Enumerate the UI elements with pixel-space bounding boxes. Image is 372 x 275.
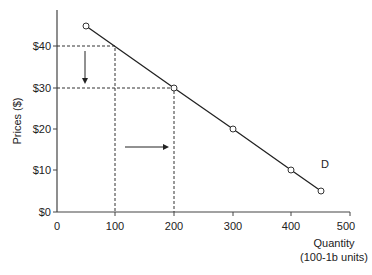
x-tick-label: 0 xyxy=(54,220,60,232)
y-tick-label: $10 xyxy=(33,164,51,176)
y-tick-label: $30 xyxy=(33,82,51,94)
x-tick-label: 200 xyxy=(165,220,183,232)
curve-label-d: D xyxy=(321,158,329,170)
down-arrow xyxy=(82,51,88,84)
y-tick-label: $20 xyxy=(33,123,51,135)
x-axis-sublabel: (100-1b units) xyxy=(300,251,368,263)
y-axis-label: Prices ($) xyxy=(11,97,23,144)
x-tick-label: 100 xyxy=(106,220,124,232)
y-tick-label: $40 xyxy=(33,40,51,52)
y-tick-label: $0 xyxy=(39,206,51,218)
right-arrow xyxy=(125,144,169,150)
x-tick-label: 500 xyxy=(337,220,355,232)
x-tick-label: 300 xyxy=(224,220,242,232)
x-tick-label: 400 xyxy=(282,220,300,232)
dashed-guides xyxy=(57,46,174,212)
demand-chart: $0 $10 $20 $30 $40 0 100 200 300 400 500 xyxy=(0,0,372,275)
demand-curve xyxy=(86,26,321,191)
x-ticks: 0 100 200 300 400 500 xyxy=(54,212,355,232)
x-axis-label: Quantity xyxy=(314,237,355,249)
y-ticks: $0 $10 $20 $30 $40 xyxy=(33,40,57,218)
